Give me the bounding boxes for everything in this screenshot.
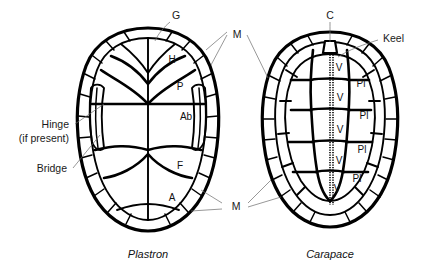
- label-keel: Keel: [383, 32, 404, 44]
- carapace-vertebral-label-1: V: [336, 62, 343, 73]
- label-gular: G: [172, 9, 180, 21]
- carapace-pleural-label-3: Pl: [358, 144, 367, 155]
- leader-m-top-carapace: [247, 35, 268, 78]
- caption-carapace: Carapace: [306, 248, 354, 260]
- plastron-group: H P Ab F A: [77, 28, 218, 231]
- leader-m-bottom-plastron-a: [201, 190, 222, 203]
- label-hinge-line2: (if present): [19, 132, 69, 144]
- label-marginal-bottom: M: [232, 200, 241, 212]
- plastron-scute-label-abdominal: Ab: [180, 111, 193, 122]
- plastron-scute-label-pectoral: P: [177, 81, 184, 92]
- carapace-cervical-scute: [323, 41, 337, 53]
- carapace-pleural-label-1: Pl: [357, 78, 366, 89]
- carapace-vertebral-label-2: V: [337, 92, 344, 103]
- carapace-vertebral-label-5: V: [334, 183, 341, 194]
- label-cervical: C: [326, 9, 334, 21]
- carapace-pleural-label-4: Pl: [353, 173, 362, 184]
- caption-plastron: Plastron: [128, 248, 168, 260]
- carapace-vertebral-label-3: V: [337, 124, 344, 135]
- plastron-scute-label-anal: A: [169, 192, 176, 203]
- carapace-vertebral-label-4: V: [336, 155, 343, 166]
- label-marginal-top: M: [233, 28, 242, 40]
- leader-m-bottom-carapace-a: [248, 180, 271, 203]
- plastron-scute-label-humeral: H: [168, 54, 175, 65]
- carapace-group: V V V V V Pl Pl Pl Pl: [262, 32, 397, 227]
- leader-m-top-plastron-b: [211, 35, 227, 65]
- label-hinge-line1: Hinge: [42, 118, 70, 130]
- turtle-shell-diagram: H P Ab F A: [0, 0, 422, 272]
- leader-m-bottom-plastron-b: [191, 209, 222, 211]
- plastron-scute-label-femoral: F: [177, 160, 183, 171]
- label-bridge: Bridge: [37, 162, 68, 174]
- carapace-pleural-label-2: Pl: [360, 110, 369, 121]
